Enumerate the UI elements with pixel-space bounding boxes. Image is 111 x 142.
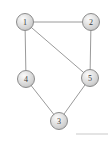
graph-node-2[interactable]: 2 <box>83 14 100 31</box>
graph-node-label-2: 2 <box>89 18 93 27</box>
graph-node-3[interactable]: 3 <box>51 113 68 130</box>
graph-diagram-canvas: 12345 <box>0 0 111 142</box>
graph-svg: 12345 <box>0 0 111 142</box>
graph-node-label-1: 1 <box>23 18 27 27</box>
graph-node-4[interactable]: 4 <box>18 71 35 88</box>
graph-node-label-5: 5 <box>88 74 92 83</box>
graph-node-1[interactable]: 1 <box>17 14 34 31</box>
node-layer: 12345 <box>17 14 100 130</box>
graph-node-5[interactable]: 5 <box>82 70 99 87</box>
graph-node-label-4: 4 <box>24 75 28 84</box>
edge-layer <box>25 22 91 121</box>
graph-node-label-3: 3 <box>57 117 61 126</box>
graph-edge-1-5 <box>25 22 90 78</box>
